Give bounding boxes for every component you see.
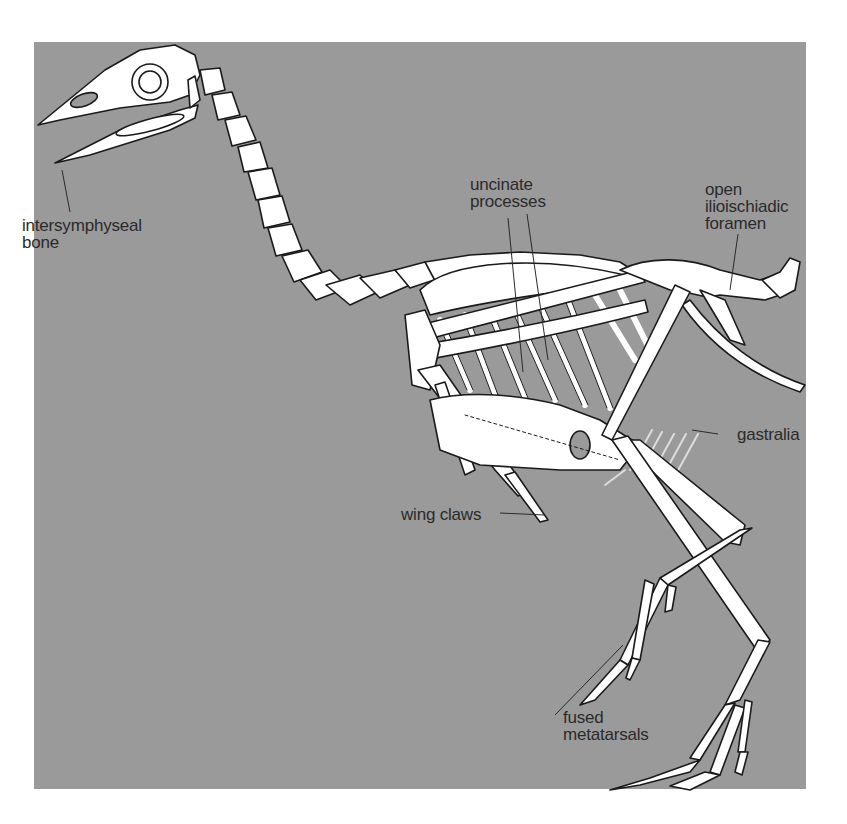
label-gastralia: gastralia (737, 426, 799, 443)
label-intersymphyseal-bone: intersymphysealbone (22, 217, 142, 251)
label-open-ilioischiadic-foramen: openilioischiadicforamen (705, 181, 788, 232)
skull (38, 45, 200, 163)
label-fused-metatarsals: fusedmetatarsals (563, 709, 649, 743)
neck-vertebrae (200, 68, 440, 305)
label-uncinate-processes: uncinateprocesses (470, 176, 546, 210)
skeleton-illustration (0, 0, 847, 824)
metatarsal (725, 640, 770, 705)
label-wing-claws: wing claws (401, 506, 481, 523)
tibia (612, 436, 770, 652)
